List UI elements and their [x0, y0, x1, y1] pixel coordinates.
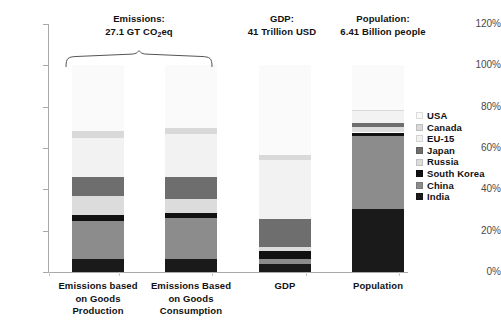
legend-item-japan[interactable]: Japan [416, 145, 500, 157]
emissions-group-brace [64, 50, 214, 68]
bar-segment-eu-15 [352, 111, 404, 123]
legend-item-south-korea[interactable]: South Korea [416, 168, 500, 180]
legend-swatch-icon [416, 193, 423, 200]
legend-item-usa[interactable]: USA [416, 110, 500, 122]
bar-segment-eu-15 [165, 134, 217, 177]
y-tick-mark [43, 189, 48, 190]
y-tick-mark [43, 107, 48, 108]
x-label-line-2: on Goods [50, 293, 146, 306]
x-label-2: Emissions Basedon GoodsConsumption [143, 280, 239, 318]
bar-3 [259, 24, 311, 272]
group-title-gdp: GDP: 41 Trillion USD [236, 12, 328, 38]
bar-segment-china [259, 259, 311, 264]
x-label-1: Emissions basedon GoodsProduction [50, 280, 146, 318]
bar-segment-india [165, 259, 217, 272]
legend-label: China [427, 180, 454, 192]
legend-label: Russia [427, 156, 459, 168]
x-label-line-1: Emissions based [50, 280, 146, 293]
bar-segment-south-korea [259, 251, 311, 258]
legend-swatch-icon [416, 182, 423, 189]
legend-swatch-icon [416, 170, 423, 177]
x-axis-line [48, 272, 408, 273]
y-tick-label: 20% [457, 225, 501, 236]
bar-segment-canada [259, 155, 311, 160]
bar-segment-japan [352, 123, 404, 127]
bar-segment-south-korea [165, 213, 217, 218]
bar-segment-eu-15 [72, 138, 124, 177]
group-title-population-line2: 6.41 Billion people [328, 25, 438, 38]
x-label-line-3: Production [50, 305, 146, 318]
y-tick-label: 100% [457, 59, 501, 70]
bar-segment-eu-15 [259, 160, 311, 219]
legend-swatch-icon [416, 135, 423, 142]
x-label-3: GDP [237, 280, 333, 293]
x-label-line-1: GDP [237, 280, 333, 293]
bar-segment-usa [352, 65, 404, 109]
stacked-bar-chart: 0%20%40%60%80%100%120% Emissions: 27.1 G… [0, 0, 501, 334]
legend-label: India [427, 191, 450, 203]
group-title-emissions-line1: Emissions: [64, 12, 214, 25]
bar-segment-russia [72, 196, 124, 216]
bar-segment-india [72, 259, 124, 272]
group-title-population-line1: Population: [328, 12, 438, 25]
bar-segment-russia [165, 199, 217, 213]
x-tick-mark [399, 272, 400, 276]
group-title-emissions: Emissions: 27.1 GT CO2eq [64, 12, 214, 39]
chart-legend: USACanadaEU-15JapanRussiaSouth KoreaChin… [416, 110, 500, 203]
bar-segment-japan [259, 219, 311, 247]
legend-item-china[interactable]: China [416, 180, 500, 192]
x-label-line-1: Emissions Based [143, 280, 239, 293]
bar-segment-china [165, 218, 217, 258]
x-tick-mark [212, 272, 213, 276]
bar-segment-usa [259, 65, 311, 155]
legend-swatch-icon [416, 124, 423, 131]
bar-segment-usa [72, 65, 124, 131]
legend-label: Japan [427, 145, 455, 157]
bar-segment-south-korea [352, 133, 404, 136]
legend-swatch-icon [416, 147, 423, 154]
y-tick-label: 0% [457, 266, 501, 277]
legend-label: EU-15 [427, 133, 454, 145]
legend-label: USA [427, 110, 447, 122]
x-tick-mark [49, 272, 50, 276]
bar-segment-china [352, 136, 404, 209]
bar-segment-canada [352, 110, 404, 111]
x-label-4: Population [330, 280, 426, 293]
x-tick-mark [306, 272, 307, 276]
y-tick-mark [43, 272, 48, 273]
legend-swatch-icon [416, 112, 423, 119]
bar-segment-south-korea [72, 215, 124, 221]
y-axis-line [48, 24, 49, 272]
legend-item-russia[interactable]: Russia [416, 156, 500, 168]
legend-swatch-icon [416, 159, 423, 166]
bar-segment-usa [165, 65, 217, 128]
legend-item-canada[interactable]: Canada [416, 122, 500, 134]
y-tick-mark [43, 148, 48, 149]
y-tick-label: 120% [457, 18, 501, 29]
bar-segment-india [259, 264, 311, 272]
bar-segment-russia [259, 247, 311, 251]
legend-label: Canada [427, 122, 462, 134]
bar-4 [352, 24, 404, 272]
legend-item-india[interactable]: India [416, 191, 500, 203]
y-tick-mark [43, 65, 48, 66]
group-title-population: Population: 6.41 Billion people [328, 12, 438, 38]
legend-item-eu-15[interactable]: EU-15 [416, 133, 500, 145]
x-label-line-2: on Goods [143, 293, 239, 306]
group-title-gdp-line2: 41 Trillion USD [236, 25, 328, 38]
bar-segment-canada [165, 128, 217, 133]
bar-segment-china [72, 221, 124, 258]
x-label-line-1: Population [330, 280, 426, 293]
group-title-gdp-line1: GDP: [236, 12, 328, 25]
y-tick-mark [43, 24, 48, 25]
y-tick-mark [43, 231, 48, 232]
bar-segment-japan [72, 177, 124, 196]
bar-segment-canada [72, 131, 124, 137]
legend-label: South Korea [427, 168, 485, 180]
bar-segment-russia [352, 127, 404, 132]
bar-segment-japan [165, 177, 217, 199]
bar-segment-india [352, 209, 404, 272]
group-title-emissions-line2: 27.1 GT CO2eq [64, 25, 214, 39]
x-label-line-3: Consumption [143, 305, 239, 318]
x-tick-mark [119, 272, 120, 276]
